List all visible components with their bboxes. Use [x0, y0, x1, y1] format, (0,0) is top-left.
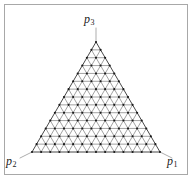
lattice-node	[100, 143, 102, 145]
lattice-node	[104, 135, 106, 137]
lattice-node	[63, 143, 65, 145]
lattice-node	[95, 88, 97, 90]
lattice-node	[68, 88, 70, 90]
lattice-node	[72, 143, 74, 145]
lattice-node	[95, 135, 97, 137]
axis-label-p1: p1	[167, 155, 177, 167]
lattice-node	[104, 104, 106, 106]
lattice-node	[58, 104, 60, 106]
lattice-node	[86, 104, 88, 106]
lattice-node	[145, 143, 147, 145]
lattice-node	[77, 120, 79, 122]
lattice-node	[104, 88, 106, 90]
lattice-node	[159, 151, 161, 153]
lattice-node	[104, 57, 106, 59]
lattice-node	[95, 72, 97, 74]
lattice-node	[127, 112, 129, 114]
simplex-lattice-canvas	[0, 0, 193, 180]
lattice-line-left-diagonal	[82, 66, 132, 152]
lattice-node	[100, 112, 102, 114]
axis-label-p2: p2	[6, 155, 16, 167]
lattice-node	[81, 65, 83, 67]
lattice-node	[90, 49, 92, 51]
lattice-node	[90, 112, 92, 114]
lattice-node	[90, 96, 92, 98]
lattice-node	[68, 120, 70, 122]
lattice-node	[77, 151, 79, 153]
lattice-node	[58, 135, 60, 137]
lattice-node	[127, 127, 129, 129]
lattice-node	[86, 57, 88, 59]
lattice-node	[72, 127, 74, 129]
lattice-node	[100, 49, 102, 51]
lattice-node	[109, 65, 111, 67]
lattice-node	[113, 135, 115, 137]
lattice-node	[154, 143, 156, 145]
lattice-node	[54, 112, 56, 114]
lattice-node	[72, 96, 74, 98]
lattice-node	[68, 135, 70, 137]
lattice-node	[90, 127, 92, 129]
lattice-node	[77, 88, 79, 90]
lattice-node	[90, 80, 92, 82]
lattice-node	[141, 135, 143, 137]
lattice-node	[109, 143, 111, 145]
lattice-node	[86, 72, 88, 74]
lattice-node	[136, 143, 138, 145]
lattice-node	[122, 120, 124, 122]
axis-label-p3: p3	[84, 13, 94, 25]
lattice-node	[81, 96, 83, 98]
lattice-node	[86, 151, 88, 153]
lattice-node	[54, 127, 56, 129]
axis-label-p2-subscript: 2	[13, 160, 17, 169]
lattice-node	[31, 151, 33, 153]
lattice-node	[68, 151, 70, 153]
lattice-node	[118, 143, 120, 145]
lattice-node	[118, 80, 120, 82]
leader-p2	[20, 152, 32, 158]
lattice-line-left-diagonal	[37, 144, 42, 152]
lattice-node	[122, 104, 124, 106]
lattice-node	[49, 151, 51, 153]
lattice-node	[122, 88, 124, 90]
lattice-node	[49, 135, 51, 137]
lattice-node	[81, 127, 83, 129]
lattice-node	[132, 104, 134, 106]
lattice-line-right-diagonal	[114, 113, 137, 152]
lattice-node	[127, 96, 129, 98]
lattice-node	[77, 135, 79, 137]
lattice-node	[109, 80, 111, 82]
lattice-node	[95, 104, 97, 106]
lattice-node	[40, 135, 42, 137]
lattice-node	[86, 135, 88, 137]
lattice-node	[113, 151, 115, 153]
lattice-node	[109, 96, 111, 98]
lattice-node	[136, 127, 138, 129]
lattice-node	[113, 72, 115, 74]
lattice-node	[45, 127, 47, 129]
lattice-node	[150, 151, 152, 153]
lattice-node	[95, 41, 97, 43]
lattice-node	[118, 127, 120, 129]
lattice-node	[141, 151, 143, 153]
lattice-node	[77, 72, 79, 74]
lattice-node	[104, 120, 106, 122]
lattice-node	[86, 88, 88, 90]
lattice-node	[109, 112, 111, 114]
lattice-node	[100, 65, 102, 67]
lattice-line-left-diagonal	[55, 113, 78, 152]
lattice-node	[100, 96, 102, 98]
lattice-line-left-diagonal	[73, 81, 114, 152]
lattice-node	[45, 143, 47, 145]
lattice-node	[127, 143, 129, 145]
lattice-node	[122, 151, 124, 153]
lattice-node	[49, 120, 51, 122]
lattice-node	[104, 72, 106, 74]
lattice-node	[113, 88, 115, 90]
lattice-node	[132, 151, 134, 153]
lattice-node	[90, 65, 92, 67]
lattice-node	[81, 143, 83, 145]
lattice-node	[81, 112, 83, 114]
lattice-node	[122, 135, 124, 137]
lattice-node	[113, 104, 115, 106]
